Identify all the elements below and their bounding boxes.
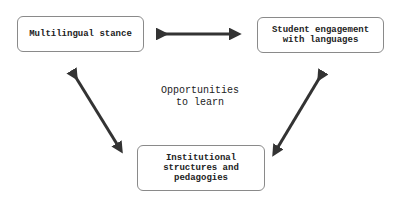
node-student-engagement: Student engagement with languages xyxy=(257,17,384,53)
arrow-stance-institutional xyxy=(75,76,120,149)
node-label: Institutional structures and pedagogies xyxy=(163,153,239,183)
node-multilingual-stance: Multilingual stance xyxy=(17,16,144,52)
node-label: Multilingual stance xyxy=(29,29,132,39)
center-label: Opportunities to learn xyxy=(140,85,260,109)
node-institutional-structures: Institutional structures and pedagogies xyxy=(137,145,265,191)
node-label: Student engagement with languages xyxy=(272,25,369,45)
arrow-engagement-institutional xyxy=(275,77,320,152)
